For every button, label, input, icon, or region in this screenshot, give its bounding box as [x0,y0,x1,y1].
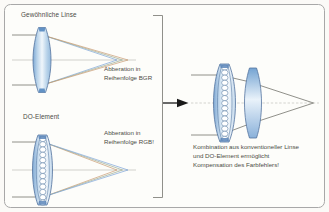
diffractive-chain [40,136,46,205]
svg-text:Reihenfolge RGB!: Reihenfolge RGB! [104,138,154,145]
diffractive-lens [214,64,236,142]
svg-text:und DO-Element ermöglicht: und DO-Element ermöglicht [193,152,270,159]
panel-title-conventional-lens: Gewöhnliche Linse [21,11,77,18]
diffractive-chain [222,65,228,142]
optics-diagram: Gewöhnliche Linse Abberation in Reihenfo… [0,0,329,212]
biconvex-lens [33,28,51,93]
svg-text:Abberation in: Abberation in [104,129,141,136]
panel-title-do-element: DO-Element [23,113,59,120]
svg-text:Abberation in: Abberation in [104,65,141,72]
biconvex-lens [245,68,262,138]
svg-text:Kompensation des Farbfehlers!: Kompensation des Farbfehlers! [193,161,279,168]
svg-text:Kombination aus konventionelle: Kombination aus konventioneller Linse [193,143,300,150]
svg-text:Reihenfolge BGR: Reihenfolge BGR [104,74,153,81]
diffractive-lens [33,135,53,205]
